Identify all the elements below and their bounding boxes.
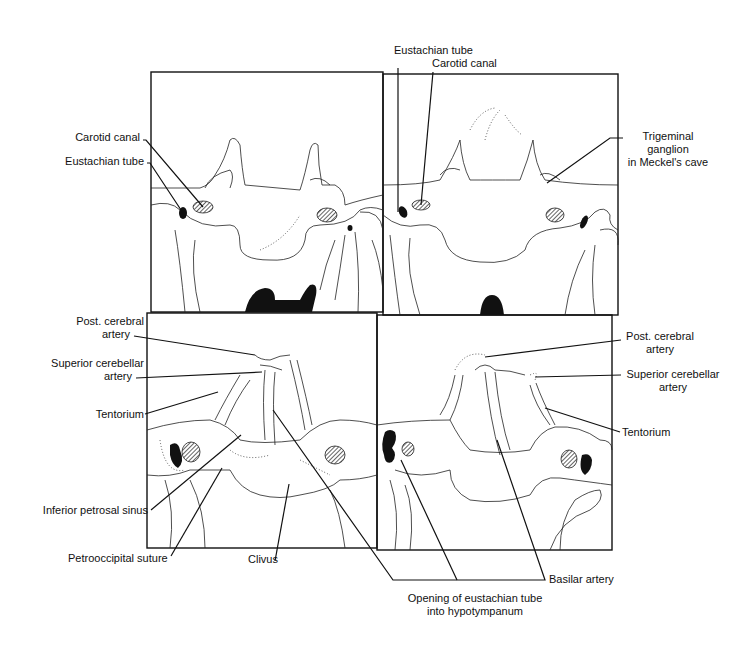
- label-opening-line2: into hypotympanum: [400, 605, 550, 618]
- label-superior-cerebellar-artery-bl: Superior cerebellar artery: [20, 357, 144, 383]
- label-superior-cerebellar-artery-br: Superior cerebellar artery: [618, 368, 728, 394]
- label-petrooccipital-suture: Petrooccipital suture: [68, 552, 168, 565]
- label-trigeminal-line3: in Meckel's cave: [612, 156, 724, 169]
- label-superior-cerebellar-line1: Superior cerebellar: [20, 357, 144, 370]
- label-carotid-canal-tr: Carotid canal: [432, 57, 497, 70]
- panel-top-right-frame: [383, 74, 618, 315]
- skull-base-anatomy-diagram: Carotid canal Eustachian tube Eustachian…: [0, 0, 729, 657]
- label-tentorium-br: Tentorium: [622, 426, 670, 439]
- panel-bottom-right-artwork: [377, 354, 612, 550]
- label-basilar-artery: Basilar artery: [549, 573, 614, 586]
- label-trigeminal-line1: Trigeminal: [612, 130, 724, 143]
- label-post-cerebral-line1: Post. cerebral: [40, 315, 144, 328]
- label-superior-cerebellar-br-line2: artery: [618, 381, 728, 394]
- label-clivus: Clivus: [248, 553, 278, 566]
- panel-top-left-frame: [151, 72, 383, 312]
- label-opening-line1: Opening of eustachian tube: [400, 592, 550, 605]
- label-trigeminal-ganglion: Trigeminal ganglion in Meckel's cave: [612, 130, 724, 169]
- label-superior-cerebellar-br-line1: Superior cerebellar: [618, 368, 728, 381]
- label-superior-cerebellar-line2: artery: [20, 370, 144, 383]
- panel-bottom-left-artwork: [147, 355, 377, 548]
- label-eustachian-tube-tl: Eustachian tube: [54, 155, 144, 168]
- label-post-cerebral-artery-bl: Post. cerebral artery: [40, 315, 144, 341]
- label-trigeminal-line2: ganglion: [612, 143, 724, 156]
- panel-top-right-artwork: [383, 108, 618, 315]
- label-inferior-petrosal-sinus: Inferior petrosal sinus: [20, 504, 148, 517]
- label-eustachian-tube-tr: Eustachian tube: [394, 44, 473, 57]
- label-post-cerebral-br-line2: artery: [618, 343, 702, 356]
- label-tentorium-bl: Tentorium: [60, 408, 144, 421]
- leader-lines: [134, 68, 623, 580]
- panel-bottom-left-frame: [147, 313, 377, 548]
- label-post-cerebral-br-line1: Post. cerebral: [618, 330, 702, 343]
- label-post-cerebral-line2: artery: [40, 328, 144, 341]
- label-carotid-canal-tl: Carotid canal: [70, 131, 140, 144]
- panel-top-left-artwork: [151, 138, 383, 312]
- label-post-cerebral-artery-br: Post. cerebral artery: [618, 330, 702, 356]
- label-opening-eustachian-tube: Opening of eustachian tube into hypotymp…: [400, 592, 550, 618]
